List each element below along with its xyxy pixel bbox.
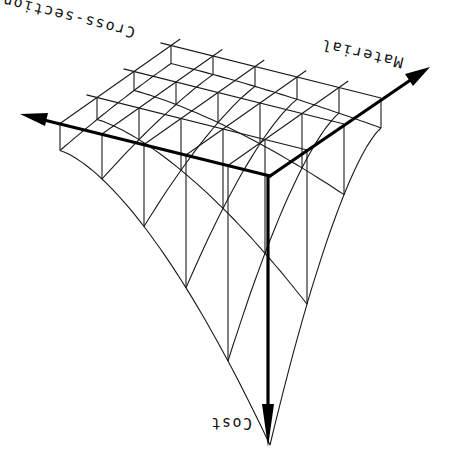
material-label: Material: [319, 35, 405, 71]
top-grid-line: [87, 95, 308, 150]
material-axis: [270, 79, 412, 176]
cross-section-axis: [40, 119, 270, 176]
surface-curve-material-const: [60, 151, 270, 446]
surface-curve-cross-section-const: [270, 128, 381, 445]
surface-curve-cross-section-const: [228, 113, 339, 361]
cross-section-arrowhead-icon: [20, 113, 48, 126]
cost-label: Cost: [210, 414, 252, 432]
cost-arrowhead-icon: [262, 404, 274, 447]
surface-curve-material-const: [97, 120, 307, 305]
top-grid-line: [186, 71, 306, 156]
top-grid-line: [102, 50, 222, 135]
surface-curve-material-const: [171, 64, 381, 129]
top-grid-line: [60, 39, 180, 124]
surface-curve-cross-section-const: [102, 75, 213, 179]
cost-surface-diagram: Cross-section Material Cost: [0, 0, 449, 464]
surface-curve-cross-section-const: [186, 99, 297, 288]
top-grid-line: [124, 69, 345, 124]
top-reference-grid: [60, 39, 381, 166]
top-grid-line: [144, 60, 264, 145]
surface-curve-cross-section-const: [144, 86, 255, 226]
cross-section-label: Cross-section: [0, 0, 137, 42]
